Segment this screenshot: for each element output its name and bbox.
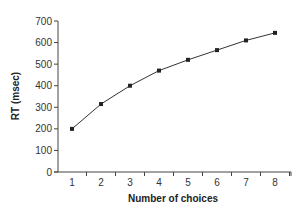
y-axis: 0100200300400500600700 [35, 16, 58, 178]
data-point-marker [99, 102, 103, 106]
data-point-marker [157, 69, 161, 73]
x-tick-label: 3 [127, 177, 133, 188]
y-tick-label: 300 [35, 102, 52, 113]
x-tick-label: 4 [156, 177, 162, 188]
data-point-marker [244, 38, 248, 42]
y-tick-label: 400 [35, 80, 52, 91]
y-tick-label: 500 [35, 59, 52, 70]
x-axis-title: Number of choices [128, 193, 218, 204]
x-tick-label: 7 [243, 177, 249, 188]
data-point-marker [70, 127, 74, 131]
x-axis: 12345678 [54, 172, 291, 188]
data-point-marker [128, 84, 132, 88]
x-tick-label: 5 [185, 177, 191, 188]
y-tick-label: 0 [46, 167, 52, 178]
data-point-marker [215, 48, 219, 52]
y-tick-label: 100 [35, 145, 52, 156]
x-tick-label: 1 [69, 177, 75, 188]
x-tick-label: 8 [272, 177, 278, 188]
x-tick-label: 6 [214, 177, 220, 188]
y-tick-label: 200 [35, 123, 52, 134]
y-tick-label: 600 [35, 37, 52, 48]
data-point-marker [186, 58, 190, 62]
y-axis-title: RT (msec) [10, 72, 21, 120]
data-series [70, 31, 277, 131]
series-line [72, 33, 275, 129]
y-tick-label: 700 [35, 16, 52, 27]
data-point-marker [273, 31, 277, 35]
x-tick-label: 2 [98, 177, 104, 188]
line-chart: 0100200300400500600700 12345678 RT (msec… [0, 0, 305, 209]
